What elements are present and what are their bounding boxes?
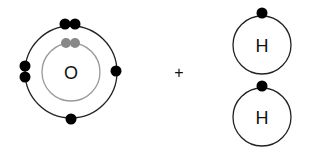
plus-operator: +: [174, 64, 183, 81]
hydrogen-symbol: H: [256, 108, 269, 128]
hydrogen-atom-2: H: [233, 81, 291, 147]
outer-electron: [20, 72, 31, 83]
inner-electron: [70, 38, 80, 48]
hydrogen-atom-1: H: [233, 8, 291, 75]
inner-electron: [61, 38, 71, 48]
hydrogen-electron: [257, 8, 268, 19]
oxygen-symbol: O: [64, 63, 78, 83]
outer-electron: [111, 66, 122, 77]
outer-electron: [66, 114, 77, 125]
oxygen-atom: O: [20, 19, 122, 125]
outer-electron: [60, 19, 71, 30]
hydrogen-symbol: H: [256, 36, 269, 56]
outer-electron: [70, 19, 81, 30]
outer-electron: [20, 61, 31, 72]
bohr-diagram: O + H H: [0, 0, 309, 153]
hydrogen-electron: [257, 81, 268, 92]
